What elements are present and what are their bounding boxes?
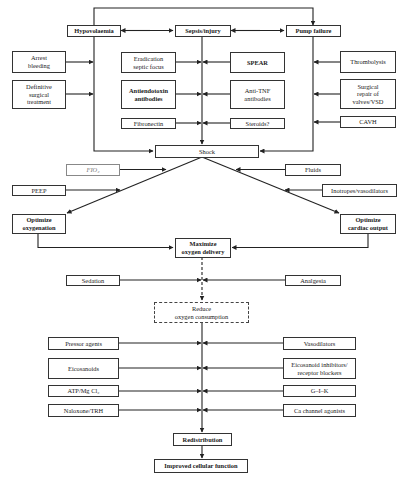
optimize-oxygenation-box: Optimize oxygenation bbox=[12, 214, 66, 234]
inotropes-vasodilators-box: Inotropes/vasodilators bbox=[322, 184, 397, 197]
eradication-septic-focus-box: Eradication septic focus bbox=[121, 52, 176, 73]
shock-management-flowchart: Hypovolaemia Sepsis/injury Pump failure … bbox=[0, 0, 405, 478]
hypovolaemia-box: Hypovolaemia bbox=[67, 25, 121, 37]
optimize-cardiac-output-box: Optimize cardiac output bbox=[340, 214, 396, 234]
analgesia-box: Analgesia bbox=[285, 275, 341, 286]
ca-channel-agonists-box: Ca channel agonists bbox=[283, 404, 356, 417]
vasodilators-box: Vasodilators bbox=[283, 337, 356, 350]
definitive-surgical-treatment-box: Definitive surgical treatment bbox=[12, 80, 66, 109]
fibronectin-box: Fibronectin bbox=[121, 118, 176, 129]
eicosanoid-inhibitors-box: Eicosanoid inhibitors/ receptor blockers bbox=[283, 358, 356, 379]
fio2-box: FIO₂ bbox=[66, 164, 120, 176]
antiendotoxin-antibodies-box: Antiendotoxin antibodies bbox=[121, 80, 176, 109]
arrest-bleeding-box: Arrest bleeding bbox=[12, 51, 66, 73]
shock-box: Shock bbox=[155, 145, 259, 158]
thrombolysis-box: Thrombolysis bbox=[340, 51, 396, 73]
cavh-box: CAVH bbox=[340, 116, 396, 128]
spear-box: SPEAR bbox=[230, 52, 285, 73]
naloxone-trh-box: Naloxone/TRH bbox=[48, 404, 119, 417]
sedation-box: Sedation bbox=[66, 275, 120, 286]
improved-cellular-function-box: Improved cellular function bbox=[154, 459, 248, 473]
sepsis-injury-box: Sepsis/injury bbox=[175, 25, 231, 37]
surgical-repair-box: Surgical repair of valves/VSD bbox=[340, 79, 396, 109]
eicosanoids-box: Eicosanoids bbox=[48, 358, 119, 379]
redistribution-box: Redistribution bbox=[173, 433, 232, 446]
pump-failure-box: Pump failure bbox=[286, 25, 341, 37]
reduce-oxygen-consumption-box: Reduce oxygen consumption bbox=[154, 302, 249, 323]
pressor-agents-box: Pressor agents bbox=[48, 337, 119, 350]
peep-box: PEEP bbox=[12, 185, 66, 196]
anti-tnf-antibodies-box: Anti-TNF antibodies bbox=[230, 80, 285, 109]
atp-mgcl2-box: ATP/Mg Cl₂ bbox=[48, 385, 119, 397]
fluids-box: Fluids bbox=[285, 164, 341, 176]
gik-box: G–I–K bbox=[283, 385, 356, 397]
maximize-oxygen-delivery-box: Maximize oxygen delivery bbox=[175, 238, 231, 258]
steroids-box: Steroids? bbox=[230, 118, 285, 129]
